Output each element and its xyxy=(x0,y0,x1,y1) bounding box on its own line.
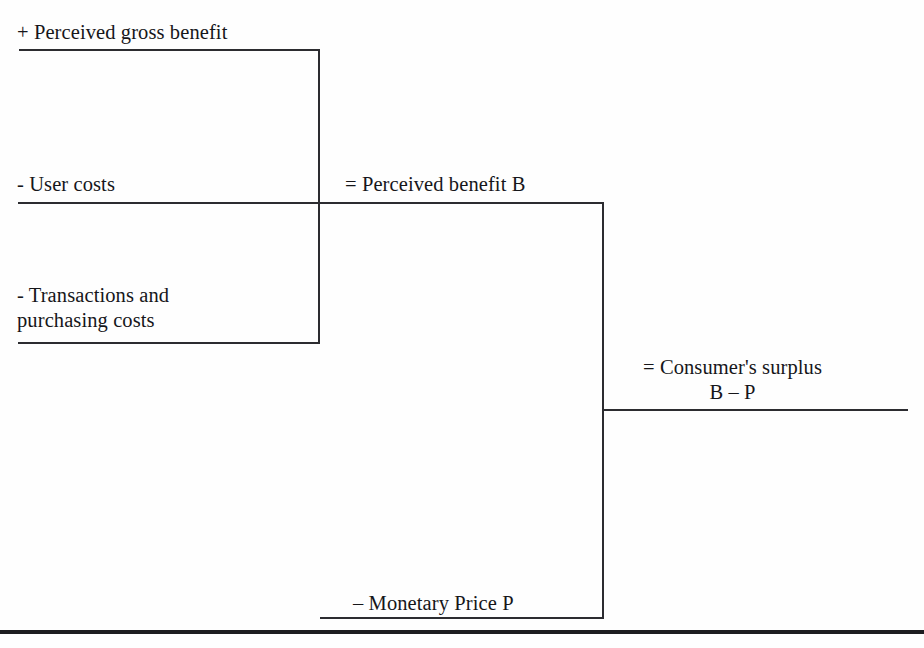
bracket-connector-left xyxy=(318,49,320,344)
label-consumers-surplus: = Consumer's surplus B – P xyxy=(643,355,822,405)
underline-consumers-surplus xyxy=(602,409,908,411)
underline-monetary-price-p xyxy=(320,617,604,619)
label-perceived-gross-benefit: + Perceived gross benefit xyxy=(17,20,227,45)
label-monetary-price-p: – Monetary Price P xyxy=(353,591,514,616)
underline-perceived-gross-benefit xyxy=(19,49,320,51)
label-consumers-surplus-line2: B – P xyxy=(643,380,822,405)
underline-user-costs xyxy=(18,202,604,204)
label-consumers-surplus-line1: = Consumer's surplus xyxy=(643,355,822,380)
underline-transactions-and-purchasing-costs xyxy=(18,342,320,344)
bracket-connector-right xyxy=(602,202,604,619)
label-transactions-and-purchasing-costs: - Transactions and purchasing costs xyxy=(17,283,169,333)
diagram-canvas: + Perceived gross benefit - User costs -… xyxy=(0,0,924,648)
label-perceived-benefit-b: = Perceived benefit B xyxy=(345,172,525,197)
label-user-costs: - User costs xyxy=(17,172,115,197)
page-bottom-border xyxy=(0,630,924,634)
